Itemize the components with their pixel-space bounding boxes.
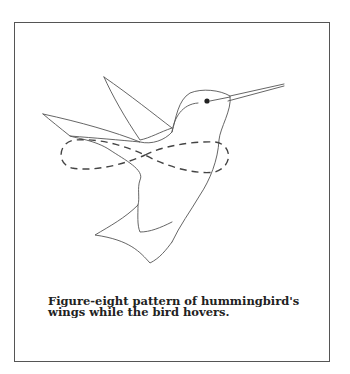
beak	[228, 84, 284, 101]
tail-inner	[138, 205, 172, 232]
bird-body	[70, 90, 230, 263]
eye-icon	[204, 98, 209, 103]
figure-eight-path	[61, 140, 228, 173]
caption-line-2: wings while the bird hovers.	[48, 307, 328, 318]
figure-caption: Figure-eight pattern of hummingbird's wi…	[48, 296, 328, 318]
head-line	[210, 97, 230, 101]
upper-wing	[104, 77, 172, 140]
